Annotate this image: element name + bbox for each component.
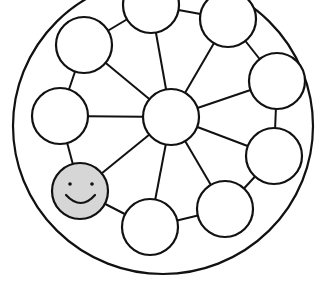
node-n2-circle bbox=[123, 0, 179, 33]
node-n7 bbox=[122, 199, 178, 255]
node-n9 bbox=[32, 88, 88, 144]
node-n4-circle bbox=[249, 53, 305, 109]
node-n9-circle bbox=[32, 88, 88, 144]
node-n1-circle bbox=[56, 17, 112, 73]
node-n4 bbox=[249, 53, 305, 109]
highlighted-node-circle bbox=[52, 163, 108, 219]
hub-node-circle bbox=[143, 89, 199, 145]
highlighted-node bbox=[52, 163, 108, 219]
node-n6-circle bbox=[197, 181, 253, 237]
network-diagram bbox=[0, 0, 320, 286]
hub-node bbox=[143, 89, 199, 145]
node-n5-circle bbox=[246, 128, 302, 184]
node-n3-circle bbox=[200, 0, 256, 47]
node-n2 bbox=[123, 0, 179, 33]
node-n7-circle bbox=[122, 199, 178, 255]
node-n6 bbox=[197, 181, 253, 237]
node-n1 bbox=[56, 17, 112, 73]
nodes-layer bbox=[32, 0, 305, 255]
node-n5 bbox=[246, 128, 302, 184]
node-n3 bbox=[200, 0, 256, 47]
